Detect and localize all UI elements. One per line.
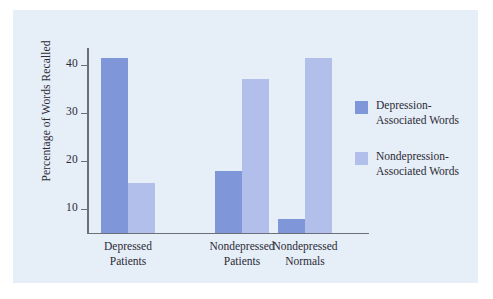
chart-legend: Depression- Associated Words Nondepressi… bbox=[355, 98, 480, 200]
x-category-label-line2: Normals bbox=[245, 254, 365, 269]
y-tick-label-20: 20 bbox=[38, 153, 78, 165]
bar-nondepressed-patients-nondepression-words bbox=[242, 79, 269, 233]
bar-nondepressed-normals-nondepression-words bbox=[305, 58, 332, 233]
bar-depressed-patients-nondepression-words bbox=[128, 183, 155, 233]
chart-figure: Percentage of Words Recalled 40 30 20 10… bbox=[13, 10, 478, 283]
y-tick-mark-20 bbox=[81, 161, 88, 162]
bar-depressed-patients-depression-words bbox=[101, 58, 128, 233]
x-category-label-line2: Patients bbox=[68, 254, 188, 269]
bar-nondepressed-patients-depression-words bbox=[215, 171, 242, 233]
y-tick-label-30: 30 bbox=[38, 105, 78, 117]
plot-area: Percentage of Words Recalled 40 30 20 10… bbox=[13, 10, 478, 283]
x-category-label-line1: Nondepressed bbox=[272, 240, 337, 252]
x-category-label-line1: Depressed bbox=[104, 240, 152, 252]
y-tick-mark-10 bbox=[81, 209, 88, 210]
legend-item-nondepression-words: Nondepression- Associated Words bbox=[355, 149, 480, 181]
legend-swatch-depression-words bbox=[355, 101, 368, 114]
legend-label-depression-words-line2: Associated Words bbox=[376, 113, 480, 128]
legend-label-nondepression-words-line1: Nondepression- bbox=[376, 149, 480, 164]
y-axis-line bbox=[87, 48, 89, 234]
x-category-label-depressed-patients: Depressed Patients bbox=[68, 239, 188, 269]
x-category-label-nondepressed-normals: Nondepressed Normals bbox=[245, 239, 365, 269]
y-tick-label-40: 40 bbox=[38, 57, 78, 69]
legend-label-depression-words-line1: Depression- bbox=[376, 98, 480, 113]
y-tick-label-10: 10 bbox=[38, 201, 78, 213]
y-tick-mark-30 bbox=[81, 113, 88, 114]
legend-swatch-nondepression-words bbox=[355, 152, 368, 165]
legend-label-nondepression-words-line2: Associated Words bbox=[376, 164, 480, 179]
legend-item-depression-words: Depression- Associated Words bbox=[355, 98, 480, 130]
bar-nondepressed-normals-depression-words bbox=[278, 219, 305, 233]
y-tick-mark-40 bbox=[81, 65, 88, 66]
